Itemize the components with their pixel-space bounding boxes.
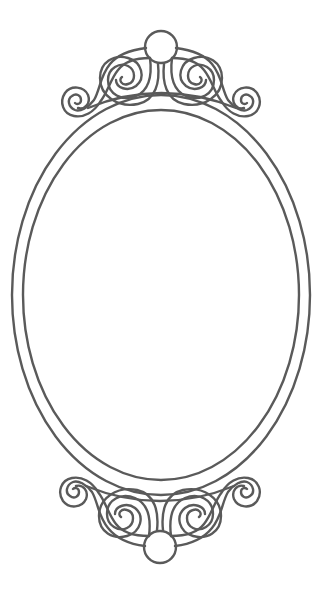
bottom-left-scroll-inner (60, 478, 149, 536)
top-left-spiral-outer (108, 58, 151, 98)
bottom-right-spiral-outer (170, 496, 213, 536)
outer-oval (12, 95, 310, 495)
top-left-scroll-inner (62, 58, 150, 116)
bottom-crest-ornament (60, 478, 260, 563)
top-right-scroll-inner (172, 58, 260, 116)
bottom-right-scroll-inner (171, 478, 260, 536)
mirror-frame-svg (0, 0, 325, 591)
top-crest-ornament (62, 31, 260, 116)
bottom-left-spiral-outer (107, 496, 150, 536)
bottom-crest-base-arc (86, 486, 234, 501)
inner-oval (23, 110, 299, 480)
mirror-frame-illustration (0, 0, 325, 591)
top-right-spiral-outer (171, 58, 214, 98)
